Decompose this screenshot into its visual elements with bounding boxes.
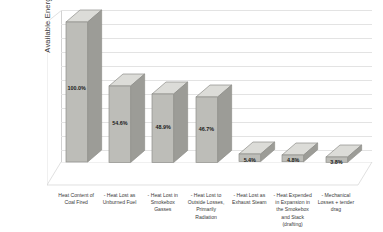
category-label: - Heat Lost to Outside Losses, Primarily… (186, 192, 226, 221)
category-label: - Heat Lost as Exhaust Steam (229, 192, 269, 206)
bar: 46.7% (196, 85, 218, 162)
category-label: - Heat Lost as Unburned Fuel (100, 192, 140, 206)
plot-area: 0.0%10.0%20.0%30.0%40.0%50.0%60.0%70.0%8… (47, 10, 372, 185)
bar-value-label: 3.8% (326, 159, 348, 165)
category-label: - Heat Expended in Expansion in the Smok… (273, 192, 313, 228)
bar: 48.9% (152, 82, 174, 162)
bar: 3.8% (326, 145, 348, 162)
bar-value-label: 48.9% (152, 124, 174, 130)
y-axis-title: Available Energy (43, 0, 52, 68)
category-label: - Heat Lost in Smokebox Gasses (143, 192, 183, 214)
bars-layer: 100.0%54.6%48.9%46.7%5.4%4.8%3.8% (47, 10, 372, 185)
energy-loss-bar-chart: 0.0%10.0%20.0%30.0%40.0%50.0%60.0%70.0%8… (0, 0, 383, 232)
bar-value-label: 54.6% (109, 120, 131, 126)
bar: 5.4% (239, 142, 261, 162)
bar-value-label: 4.8% (282, 157, 304, 163)
bar: 4.8% (282, 143, 304, 162)
bar-value-label: 5.4% (239, 157, 261, 163)
category-label: Heat Content of Coal Fired (56, 192, 96, 206)
category-labels: Heat Content of Coal Fired- Heat Lost as… (47, 192, 372, 232)
bar: 100.0% (66, 10, 88, 162)
category-label: - Mechanical Losses + tender drag (316, 192, 356, 214)
bar-value-label: 46.7% (196, 126, 218, 132)
bar: 54.6% (109, 74, 131, 162)
bar-value-label: 100.0% (66, 85, 88, 91)
